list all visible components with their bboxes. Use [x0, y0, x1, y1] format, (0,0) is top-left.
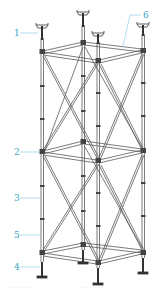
- caption-left: ··· ··· ···: [10, 284, 33, 290]
- scaffold-structure: [41, 25, 145, 268]
- callout-1: 1: [14, 29, 20, 38]
- diagonal-braces: [43, 47, 144, 260]
- base-jacks: [37, 250, 148, 285]
- bottom-frame: [43, 243, 142, 264]
- callout-3: 3: [14, 194, 20, 203]
- callout-6: 6: [143, 11, 149, 20]
- callout-4: 4: [14, 263, 20, 272]
- scaffold-tower-diagram: [0, 0, 163, 294]
- callout-2: 2: [14, 148, 20, 157]
- callout-5: 5: [14, 231, 20, 240]
- caption-right: ··· ··· ···: [82, 284, 105, 290]
